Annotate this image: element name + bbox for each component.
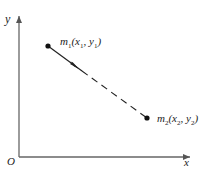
origin-label: O: [7, 155, 15, 167]
point-m1-label: m1(x1, y1): [60, 35, 101, 50]
segment-m1-m2: [48, 46, 147, 118]
y-axis-label: y: [4, 12, 11, 26]
point-m2-label: m2(x2, y2): [157, 112, 198, 127]
diagram-canvas: y O x m1(x1, y1) m2(x2, y2): [0, 0, 201, 175]
x-axis-label: x: [183, 156, 189, 168]
point-m2: [144, 115, 149, 120]
point-m1: [45, 43, 50, 48]
